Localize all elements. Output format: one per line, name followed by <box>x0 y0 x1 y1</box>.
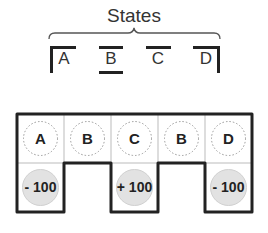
reward-right: - 100 <box>205 179 252 195</box>
grid-cell-c: C <box>111 130 158 147</box>
grid-cell-a: A <box>17 130 64 147</box>
grid-cell-b: B <box>64 130 111 147</box>
reward-left: - 100 <box>17 179 64 195</box>
grid-cell-d: D <box>205 130 252 147</box>
grid-world <box>0 0 268 233</box>
reward-middle: + 100 <box>111 179 158 195</box>
grid-cell-b-2: B <box>158 130 205 147</box>
